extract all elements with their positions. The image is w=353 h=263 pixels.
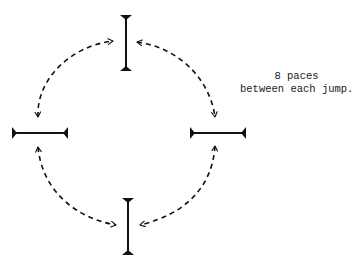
note-line-2: between each jump.	[240, 83, 353, 96]
hurdle-left	[12, 127, 68, 139]
arrow-right-to-bottom	[140, 146, 215, 225]
hurdle-bottom	[122, 198, 134, 255]
hurdle-right	[190, 127, 246, 139]
arrow-top-to-right	[137, 42, 215, 117]
note-line-1: 8 paces	[240, 70, 353, 83]
distance-note: 8 paces between each jump.	[240, 70, 353, 96]
hurdle-circuit-diagram	[0, 0, 353, 263]
hurdle-top	[120, 15, 132, 71]
arrow-left-to-top	[38, 41, 113, 117]
arrow-left-to-bottom	[38, 147, 116, 225]
